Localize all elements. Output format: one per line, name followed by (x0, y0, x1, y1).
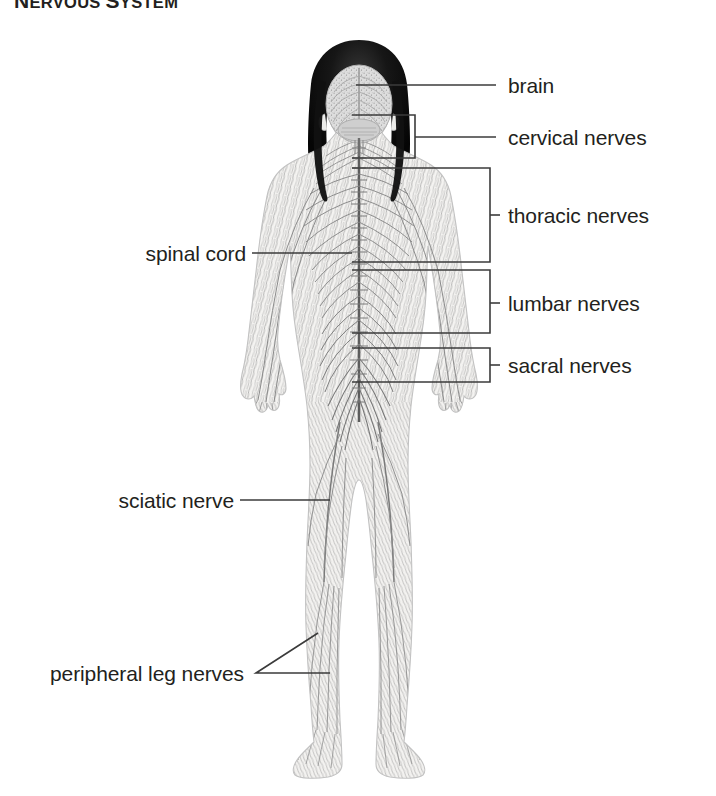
title-lead-cap: N (14, 0, 29, 12)
title-second-rest: YSTEM (120, 0, 178, 11)
nervous-system-figure: NERVOUS SYSTEM (0, 0, 716, 796)
title-lead-rest: ERVOUS (29, 0, 105, 11)
label-cervical-nerves: cervical nerves (508, 127, 647, 148)
label-brain: brain (508, 75, 554, 96)
label-lumbar-nerves: lumbar nerves (508, 293, 640, 314)
page-title: NERVOUS SYSTEM (14, 0, 178, 13)
label-thoracic-nerves: thoracic nerves (508, 205, 649, 226)
label-spinal-cord: spinal cord (0, 243, 246, 264)
human-body-illustration (228, 22, 490, 782)
label-sacral-nerves: sacral nerves (508, 355, 632, 376)
title-second-cap: S (106, 0, 120, 12)
label-sciatic-nerve: sciatic nerve (0, 490, 234, 511)
label-peripheral-leg-nerves: peripheral leg nerves (0, 663, 244, 684)
